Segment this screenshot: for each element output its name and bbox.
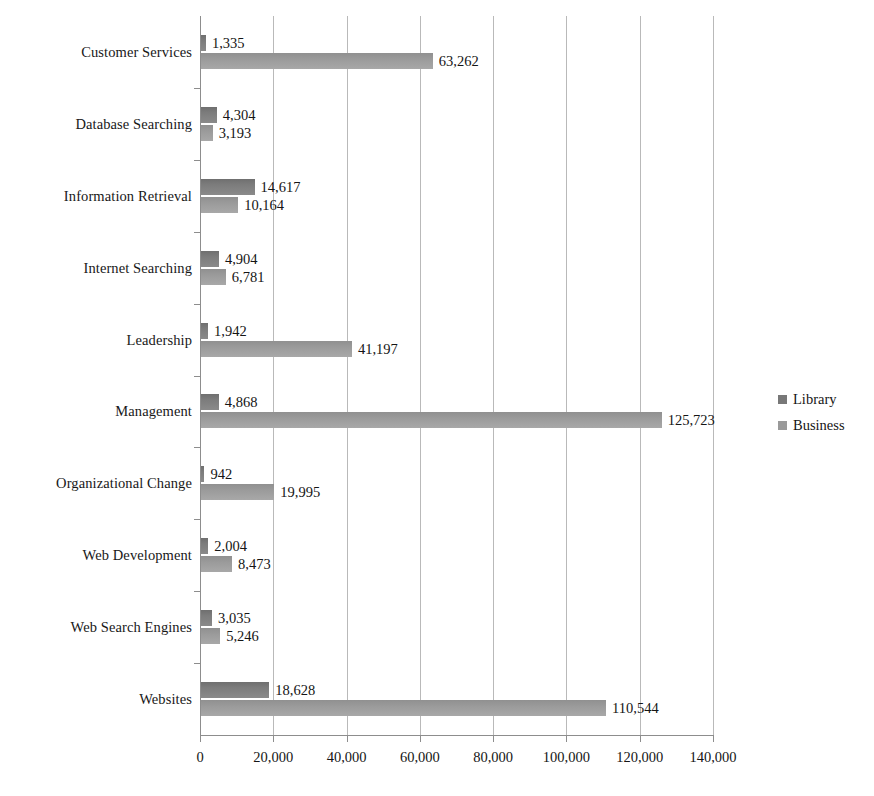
bar-value-label: 63,262: [433, 53, 479, 69]
category-label-wrap: Web Development: [0, 547, 192, 563]
y-axis-tick: [194, 591, 201, 592]
category-label: Web Development: [0, 547, 192, 563]
bar-value-label: 4,304: [217, 107, 256, 123]
gridline: [420, 16, 421, 735]
bar-business[interactable]: [201, 484, 274, 500]
bar-business[interactable]: [201, 628, 220, 644]
x-axis-tick: [200, 735, 201, 742]
bar-business[interactable]: [201, 269, 226, 285]
bar-value-label: 1,335: [206, 35, 245, 51]
bar-business[interactable]: [201, 341, 352, 357]
category-label-wrap: Organizational Change: [0, 475, 192, 491]
category-label: Leadership: [0, 332, 192, 348]
x-axis-tick: [420, 735, 421, 742]
bar-value-label: 5,246: [220, 628, 259, 644]
bar-value-label: 110,544: [606, 700, 659, 716]
category-label: Database Searching: [0, 116, 192, 132]
legend-swatch-icon: [778, 421, 787, 430]
y-axis-tick: [194, 519, 201, 520]
gridline: [640, 16, 641, 735]
x-axis-tick-label: 40,000: [327, 748, 367, 766]
category-label: Web Search Engines: [0, 619, 192, 635]
bar-value-label: 6,781: [226, 269, 265, 285]
bar-value-label: 19,995: [274, 484, 320, 500]
bar-business[interactable]: [201, 412, 662, 428]
bar-business[interactable]: [201, 125, 213, 141]
x-axis-tick-label: 140,000: [689, 748, 736, 766]
x-axis-tick: [493, 735, 494, 742]
bar-library[interactable]: [201, 538, 208, 554]
x-axis-tick-label: 20,000: [253, 748, 293, 766]
x-axis-tick-label: 120,000: [616, 748, 663, 766]
bar-library[interactable]: [201, 394, 219, 410]
category-label-wrap: Internet Searching: [0, 260, 192, 276]
category-label: Customer Services: [0, 44, 192, 60]
x-axis-tick-label: 60,000: [400, 748, 440, 766]
x-axis-tick: [640, 735, 641, 742]
bar-business[interactable]: [201, 556, 232, 572]
bar-business[interactable]: [201, 197, 238, 213]
x-axis-tick: [347, 735, 348, 742]
bar-library[interactable]: [201, 610, 212, 626]
y-axis-tick: [194, 663, 201, 664]
category-label: Internet Searching: [0, 260, 192, 276]
bar-value-label: 942: [204, 466, 232, 482]
bar-business[interactable]: [201, 700, 606, 716]
x-axis-tick: [566, 735, 567, 742]
legend-item-library[interactable]: Library: [778, 386, 845, 412]
y-axis-tick: [194, 232, 201, 233]
bar-value-label: 8,473: [232, 556, 271, 572]
y-axis-tick: [194, 88, 201, 89]
bar-value-label: 10,164: [238, 197, 284, 213]
category-label: Management: [0, 403, 192, 419]
bar-business[interactable]: [201, 53, 433, 69]
x-axis-tick-label: 80,000: [473, 748, 513, 766]
legend-label: Business: [793, 417, 845, 433]
legend-label: Library: [793, 391, 836, 407]
bar-value-label: 4,868: [219, 394, 258, 410]
bar-library[interactable]: [201, 107, 217, 123]
legend-item-business[interactable]: Business: [778, 412, 845, 438]
legend-swatch-icon: [778, 395, 787, 404]
bar-value-label: 4,904: [219, 251, 258, 267]
bar-value-label: 1,942: [208, 323, 247, 339]
bar-value-label: 18,628: [269, 682, 315, 698]
gridline: [493, 16, 494, 735]
bar-value-label: 41,197: [352, 341, 398, 357]
y-axis-tick: [194, 304, 201, 305]
y-axis-tick: [194, 160, 201, 161]
category-label: Websites: [0, 691, 192, 707]
y-axis-tick: [194, 447, 201, 448]
category-label-wrap: Management: [0, 403, 192, 419]
legend: Library Business: [778, 386, 845, 438]
x-axis-tick-label: 100,000: [543, 748, 590, 766]
bar-value-label: 125,723: [662, 412, 715, 428]
category-label-wrap: Customer Services: [0, 44, 192, 60]
y-axis-tick: [194, 376, 201, 377]
category-label-wrap: Websites: [0, 691, 192, 707]
plot-area: 1,33563,2624,3043,19314,61710,1644,9046,…: [200, 16, 713, 735]
gridline: [713, 16, 714, 735]
gridline: [347, 16, 348, 735]
bar-value-label: 2,004: [208, 538, 247, 554]
x-axis-tick: [713, 735, 714, 742]
gridline: [566, 16, 567, 735]
bar-library[interactable]: [201, 251, 219, 267]
bar-value-label: 3,035: [212, 610, 251, 626]
x-axis-line: [200, 735, 714, 736]
gridline: [273, 16, 274, 735]
x-axis-tick-label: 0: [196, 748, 203, 766]
category-label-wrap: Database Searching: [0, 116, 192, 132]
category-label: Information Retrieval: [0, 188, 192, 204]
category-label-wrap: Leadership: [0, 332, 192, 348]
bar-value-label: 14,617: [255, 179, 301, 195]
bar-value-label: 3,193: [213, 125, 252, 141]
category-label-wrap: Web Search Engines: [0, 619, 192, 635]
category-label-wrap: Information Retrieval: [0, 188, 192, 204]
category-label: Organizational Change: [0, 475, 192, 491]
bar-library[interactable]: [201, 179, 255, 195]
bar-library[interactable]: [201, 682, 269, 698]
x-axis-tick: [273, 735, 274, 742]
bar-library[interactable]: [201, 323, 208, 339]
bar-chart: 1,33563,2624,3043,19314,61710,1644,9046,…: [0, 0, 874, 796]
